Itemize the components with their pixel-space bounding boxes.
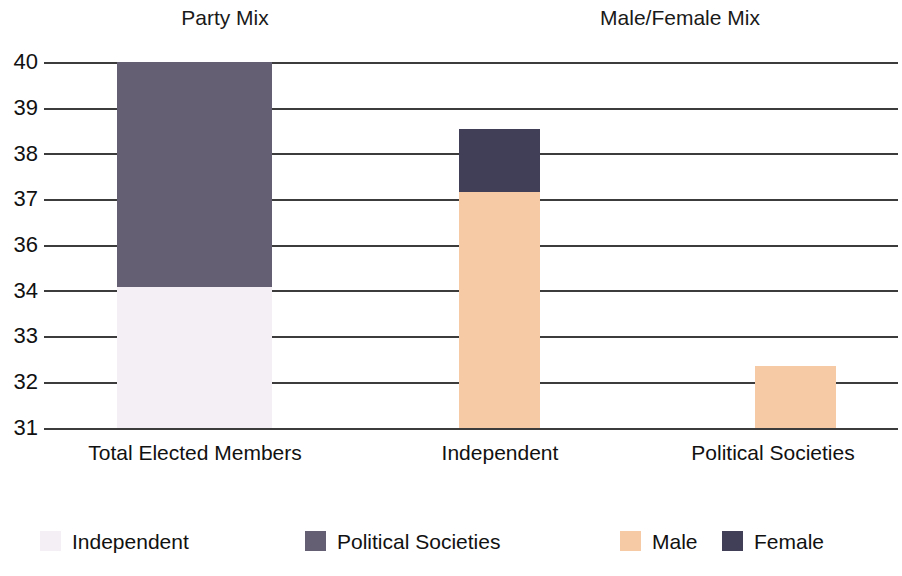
plot-area (44, 62, 898, 428)
gridline-31 (44, 428, 898, 430)
legend-swatch-political-societies (305, 531, 326, 551)
y-axis-tick-36: 36 (0, 234, 38, 256)
x-axis-category-political-societies: Political Societies (645, 440, 901, 465)
y-axis-tick-31: 31 (0, 417, 38, 439)
y-axis-tick-40: 40 (0, 51, 38, 73)
y-axis-tick-32: 32 (0, 371, 38, 393)
bar-segment-independent-female[interactable] (459, 129, 540, 192)
x-axis-category-independent: Independent (370, 440, 630, 465)
legend-item-male[interactable]: Male (620, 524, 698, 558)
legend-swatch-male (620, 531, 641, 551)
legend-swatch-independent (40, 531, 61, 551)
legend-label-female: Female (754, 529, 824, 554)
x-axis-category-total-elected-members: Total Elected Members (35, 440, 355, 465)
y-axis-tick-33: 33 (0, 325, 38, 347)
bar-segment-total-elected-independent[interactable] (117, 287, 272, 428)
bar-segment-total-elected-political-societies[interactable] (117, 62, 272, 287)
bar-segment-independent-male[interactable] (459, 192, 540, 428)
y-axis-tick-38: 38 (0, 143, 38, 165)
y-axis-tick-39: 39 (0, 97, 38, 119)
legend-item-independent[interactable]: Independent (40, 524, 189, 558)
legend-swatch-female (722, 531, 743, 551)
legend-item-political-societies[interactable]: Political Societies (305, 524, 500, 558)
chart-legend: Independent Political Societies Male Fem… (0, 524, 902, 564)
legend-label-political-societies: Political Societies (337, 529, 500, 554)
legend-label-independent: Independent (72, 529, 189, 554)
panel-title-party-mix: Party Mix (60, 5, 390, 30)
y-axis-tick-34: 34 (0, 280, 38, 302)
y-axis-tick-37: 37 (0, 188, 38, 210)
panel-title-male-female-mix: Male/Female Mix (500, 5, 860, 30)
legend-item-female[interactable]: Female (722, 524, 824, 558)
bar-segment-political-societies-male[interactable] (755, 366, 836, 428)
legend-label-male: Male (652, 529, 698, 554)
chart-container: Party Mix Male/Female Mix 40 39 38 37 36… (0, 0, 902, 576)
